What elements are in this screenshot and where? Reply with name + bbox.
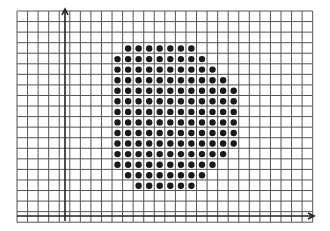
dot: [146, 162, 152, 168]
dot: [220, 119, 226, 125]
dot: [178, 88, 184, 94]
dot: [167, 119, 173, 125]
dot: [125, 119, 131, 125]
dot: [178, 140, 184, 146]
dot: [135, 151, 141, 157]
dot: [220, 140, 226, 146]
dot: [146, 140, 152, 146]
dot: [209, 140, 215, 146]
dot: [125, 140, 131, 146]
dot: [125, 109, 131, 115]
dot: [157, 172, 163, 178]
dot: [114, 98, 120, 104]
dot: [146, 172, 152, 178]
dot: [178, 45, 184, 51]
dot: [167, 130, 173, 136]
grid-lines: [17, 11, 313, 222]
dot: [167, 98, 173, 104]
dot: [157, 56, 163, 62]
dot: [157, 119, 163, 125]
dot: [178, 151, 184, 157]
dot: [209, 109, 215, 115]
dot: [199, 130, 205, 136]
dot: [199, 56, 205, 62]
dot: [135, 66, 141, 72]
dot: [114, 162, 120, 168]
dot: [178, 66, 184, 72]
dot: [157, 151, 163, 157]
dot: [209, 151, 215, 157]
dot: [114, 119, 120, 125]
dot: [135, 162, 141, 168]
dot: [146, 88, 152, 94]
dot: [209, 130, 215, 136]
dot: [178, 172, 184, 178]
dot: [199, 162, 205, 168]
dot: [167, 66, 173, 72]
dot: [167, 88, 173, 94]
dot: [167, 109, 173, 115]
dot: [209, 88, 215, 94]
dot: [114, 109, 120, 115]
dot: [199, 98, 205, 104]
dot: [199, 140, 205, 146]
axes: [17, 9, 314, 221]
dot: [178, 130, 184, 136]
dot: [146, 98, 152, 104]
dot: [188, 183, 194, 189]
dot: [114, 88, 120, 94]
dot: [125, 66, 131, 72]
dot: [199, 77, 205, 83]
dot: [178, 77, 184, 83]
dot: [146, 109, 152, 115]
dot: [231, 140, 237, 146]
dot: [135, 130, 141, 136]
dot: [220, 109, 226, 115]
dot: [135, 183, 141, 189]
dot: [157, 66, 163, 72]
dot: [209, 77, 215, 83]
dot: [114, 66, 120, 72]
dot: [209, 66, 215, 72]
dot: [167, 77, 173, 83]
dot: [125, 98, 131, 104]
dot: [114, 56, 120, 62]
dot: [135, 77, 141, 83]
dot: [199, 109, 205, 115]
dot: [178, 119, 184, 125]
dot: [146, 77, 152, 83]
dot: [220, 130, 226, 136]
dot: [146, 56, 152, 62]
dot: [188, 109, 194, 115]
dot: [188, 45, 194, 51]
dot: [125, 77, 131, 83]
dot: [125, 162, 131, 168]
dot: [114, 130, 120, 136]
dot: [231, 98, 237, 104]
dot: [135, 119, 141, 125]
dot: [135, 88, 141, 94]
dot: [167, 151, 173, 157]
dot: [220, 151, 226, 157]
dot: [146, 66, 152, 72]
dot: [157, 183, 163, 189]
dot: [178, 183, 184, 189]
dot: [146, 119, 152, 125]
dot: [209, 162, 215, 168]
dot: [178, 56, 184, 62]
dot: [199, 119, 205, 125]
dot: [125, 172, 131, 178]
dot: [199, 172, 205, 178]
dot: [146, 183, 152, 189]
dot: [167, 45, 173, 51]
dot: [231, 119, 237, 125]
dot: [167, 162, 173, 168]
dot: [157, 98, 163, 104]
dot: [125, 45, 131, 51]
dot: [199, 88, 205, 94]
dot: [220, 98, 226, 104]
dot: [188, 66, 194, 72]
dot: [125, 88, 131, 94]
dot: [125, 56, 131, 62]
dot: [135, 109, 141, 115]
